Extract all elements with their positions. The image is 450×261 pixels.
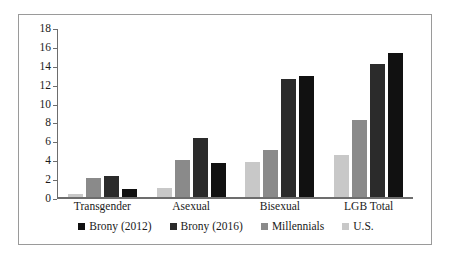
bar-slot xyxy=(388,29,403,197)
bar xyxy=(370,64,385,197)
y-axis-tick-label: 18 xyxy=(40,23,52,35)
x-axis-category-label: Asexual xyxy=(147,201,236,213)
bar-slot xyxy=(263,29,278,197)
bar xyxy=(157,188,172,197)
bar-slot xyxy=(104,29,119,197)
x-axis-category-label: LGB Total xyxy=(324,201,413,213)
bar-slot xyxy=(245,29,260,197)
bar-group xyxy=(236,29,325,197)
bar xyxy=(193,138,208,197)
bar xyxy=(104,176,119,197)
legend-item-label: U.S. xyxy=(353,221,373,233)
bar-slot xyxy=(193,29,208,197)
bar xyxy=(211,163,226,197)
bar-slot xyxy=(334,29,349,197)
bar-slot xyxy=(211,29,226,197)
legend-item-label: Brony (2012) xyxy=(89,221,151,233)
y-axis-tick-mark xyxy=(53,105,57,106)
y-axis-tick-mark xyxy=(53,180,57,181)
chart-frame: 181614121086420 TransgenderAsexualBisexu… xyxy=(18,14,432,245)
bar-group xyxy=(324,29,413,197)
legend-swatch-icon xyxy=(342,223,349,230)
y-axis-tick-mark xyxy=(53,199,57,200)
legend-swatch-icon xyxy=(261,223,268,230)
bar xyxy=(334,155,349,197)
legend-item-label: Millennials xyxy=(272,221,324,233)
legend-item[interactable]: Brony (2012) xyxy=(78,221,151,233)
bar-slot xyxy=(86,29,101,197)
bar-slot xyxy=(68,29,83,197)
legend-item[interactable]: Brony (2016) xyxy=(170,221,243,233)
x-axis-category-label: Transgender xyxy=(58,201,147,213)
bar xyxy=(175,160,190,197)
bar xyxy=(263,150,278,197)
y-axis-tick-label: 14 xyxy=(40,61,52,73)
bar xyxy=(299,76,314,197)
legend-swatch-icon xyxy=(170,223,177,230)
legend-item-label: Brony (2016) xyxy=(181,221,243,233)
y-axis-tick-mark xyxy=(53,86,57,87)
bar xyxy=(281,79,296,197)
y-axis-tick-label: 6 xyxy=(45,137,51,149)
chart-legend: Brony (2012)Brony (2016)MillennialsU.S. xyxy=(19,221,433,233)
bar-slot xyxy=(299,29,314,197)
y-axis-tick-label: 4 xyxy=(45,155,51,167)
y-axis-tick-mark xyxy=(53,123,57,124)
bar-slot xyxy=(352,29,367,197)
x-axis-line xyxy=(57,197,413,199)
bar xyxy=(245,162,260,197)
legend-item[interactable]: Millennials xyxy=(261,221,324,233)
y-axis-tick-label: 2 xyxy=(45,174,51,186)
y-axis-tick-label: 10 xyxy=(40,99,52,111)
x-axis-category-labels: TransgenderAsexualBisexualLGB Total xyxy=(58,201,413,213)
legend-swatch-icon xyxy=(78,223,85,230)
y-axis-tick-mark xyxy=(53,142,57,143)
bar-group xyxy=(58,29,147,197)
bar-slot xyxy=(122,29,137,197)
bar xyxy=(388,53,403,197)
y-axis-tick-mark xyxy=(53,29,57,30)
plot-area: 181614121086420 xyxy=(57,29,413,199)
legend-item[interactable]: U.S. xyxy=(342,221,373,233)
y-axis-tick-label: 8 xyxy=(45,118,51,130)
bar-group xyxy=(147,29,236,197)
bar xyxy=(86,178,101,197)
y-axis-tick-mark xyxy=(53,48,57,49)
y-axis-tick-label: 0 xyxy=(45,193,51,205)
bar xyxy=(122,189,137,197)
y-axis-tick-label: 16 xyxy=(40,42,52,54)
y-axis-tick-label: 12 xyxy=(40,80,52,92)
bar-slot xyxy=(370,29,385,197)
y-axis-tick-mark xyxy=(53,67,57,68)
x-axis-category-label: Bisexual xyxy=(236,201,325,213)
y-axis-tick-mark xyxy=(53,161,57,162)
bar-slot xyxy=(281,29,296,197)
bar xyxy=(352,120,367,197)
bars-layer xyxy=(58,29,413,197)
bar-slot xyxy=(157,29,172,197)
bar-slot xyxy=(175,29,190,197)
